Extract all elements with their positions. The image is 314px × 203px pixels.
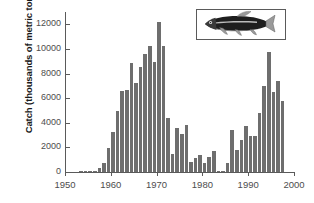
x-tick-label: 2000: [283, 179, 304, 190]
y-tick-mark: [66, 172, 70, 173]
bar: [139, 67, 143, 172]
bar: [203, 163, 207, 172]
bar: [157, 22, 161, 172]
bar: [253, 136, 257, 172]
x-tick-label: 1950: [54, 179, 75, 190]
y-tick-mark: [66, 74, 70, 75]
bar: [134, 83, 138, 172]
y-tick-label: 4000: [41, 117, 61, 127]
bar: [207, 157, 211, 172]
bar: [153, 62, 157, 172]
bar: [79, 171, 83, 172]
y-tick-label: 10000: [36, 43, 61, 53]
bar: [281, 101, 285, 172]
y-tick-label: 12000: [36, 18, 61, 28]
y-tick-mark: [66, 147, 70, 148]
y-tick-label: 2000: [41, 141, 61, 151]
bar: [120, 91, 124, 172]
bar: [249, 136, 253, 172]
bar: [217, 171, 221, 172]
bar: [107, 148, 111, 172]
x-tick-mark: [157, 172, 158, 176]
bar: [194, 158, 198, 172]
x-tick-mark: [248, 172, 249, 176]
bar: [102, 163, 106, 172]
bar: [143, 54, 147, 172]
bar: [180, 134, 184, 172]
bar: [258, 113, 262, 172]
bar: [111, 132, 115, 172]
y-tick-mark: [66, 24, 70, 25]
bar: [171, 154, 175, 172]
y-tick-label: 8000: [41, 68, 61, 78]
bar: [235, 150, 239, 172]
bar: [93, 171, 97, 172]
bar: [116, 111, 120, 172]
bar: [98, 168, 102, 172]
bar: [244, 126, 248, 172]
x-tick-mark: [65, 172, 66, 176]
x-tick-label: 1970: [146, 179, 167, 190]
bar: [185, 125, 189, 172]
bar: [262, 86, 266, 172]
bar: [267, 52, 271, 172]
y-axis-title: Catch (thousands of metric tons): [23, 0, 34, 141]
x-tick-label: 1960: [100, 179, 121, 190]
bar: [162, 46, 166, 172]
bar: [84, 171, 88, 172]
bar: [175, 128, 179, 172]
y-tick-label: 6000: [41, 92, 61, 102]
bar: [125, 90, 129, 172]
chart-figure: Catch (thousands of metric tons) 0200040…: [0, 0, 314, 203]
bar: [198, 155, 202, 172]
fish-illustration-inset: [196, 9, 286, 40]
bar: [189, 162, 193, 172]
y-tick-mark: [66, 49, 70, 50]
fish-icon: [197, 10, 283, 37]
bar: [276, 81, 280, 172]
x-tick-label: 1980: [192, 179, 213, 190]
bar: [226, 163, 230, 172]
bar: [88, 171, 92, 172]
y-tick-mark: [66, 123, 70, 124]
bar: [148, 46, 152, 172]
x-tick-mark: [111, 172, 112, 176]
y-tick-mark: [66, 98, 70, 99]
x-tick-mark: [294, 172, 295, 176]
bar: [212, 151, 216, 172]
bar: [221, 171, 225, 172]
y-tick-label: 0: [56, 166, 61, 176]
bar: [230, 130, 234, 172]
bar: [130, 63, 134, 172]
bar: [166, 118, 170, 172]
x-tick-mark: [202, 172, 203, 176]
x-tick-label: 1990: [238, 179, 259, 190]
bar: [272, 92, 276, 172]
x-axis-line: [65, 172, 294, 173]
bar: [240, 140, 244, 172]
